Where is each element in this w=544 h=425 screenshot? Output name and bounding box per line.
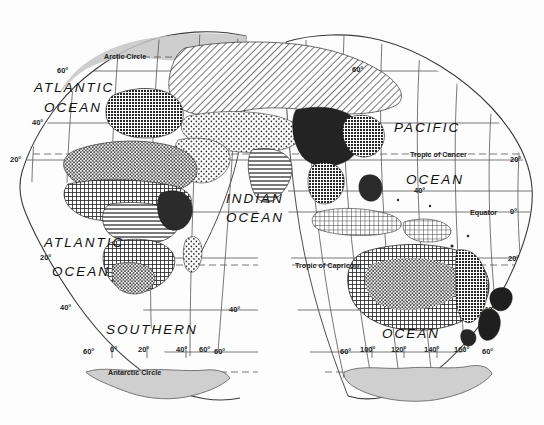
antarctica-left-region (86, 369, 230, 399)
india-region (248, 148, 292, 202)
philippines-region (359, 175, 382, 202)
island-dot (429, 205, 431, 207)
kalahari-region (112, 262, 155, 294)
new-zealand-south-region (478, 309, 500, 340)
island-dot (450, 244, 453, 247)
antarctica-right-region (344, 365, 492, 401)
map-canvas (0, 0, 544, 425)
siberia-taiga-region (169, 42, 402, 115)
world-map: ATLANTIC OCEAN INDIAN OCEAN PACIFIC OCEA… (0, 0, 544, 425)
new-zealand-north-region (490, 288, 512, 311)
indochina-region (308, 163, 344, 204)
tasmania-region (461, 329, 476, 346)
africa-landmass (64, 141, 202, 294)
island-dot (397, 199, 399, 201)
antarctica (86, 365, 492, 401)
madagascar-region (183, 237, 202, 272)
new-guinea-region (403, 219, 451, 242)
east-africa-region (158, 191, 193, 230)
australia-landmass (348, 245, 513, 347)
europe-region (106, 89, 183, 138)
indonesia-region (312, 208, 401, 235)
island-dot (467, 235, 470, 238)
